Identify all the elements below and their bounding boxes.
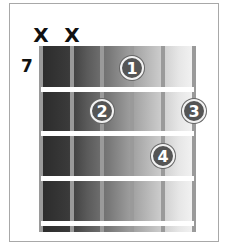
start-fret-label: 7 [21, 58, 33, 75]
finger-dot-3: 3 [182, 99, 206, 123]
string-1 [39, 46, 43, 232]
mute-marker-string-2: X [64, 25, 79, 45]
string-6 [192, 46, 196, 232]
string-2 [70, 46, 74, 232]
fret-line-3 [41, 176, 194, 181]
finger-number: 3 [188, 102, 199, 121]
finger-number: 2 [96, 102, 107, 121]
finger-number: 4 [157, 147, 168, 166]
finger-number: 1 [126, 59, 137, 78]
fret-line-4 [41, 221, 194, 226]
string-3 [100, 46, 104, 232]
finger-dot-2: 2 [90, 99, 114, 123]
string-5 [161, 46, 165, 232]
finger-dot-4: 4 [151, 144, 175, 168]
mute-marker-string-1: X [33, 25, 48, 45]
finger-dot-1: 1 [120, 56, 144, 80]
fret-line-1 [41, 87, 194, 92]
fretboard [41, 46, 194, 232]
fret-line-2 [41, 131, 194, 136]
